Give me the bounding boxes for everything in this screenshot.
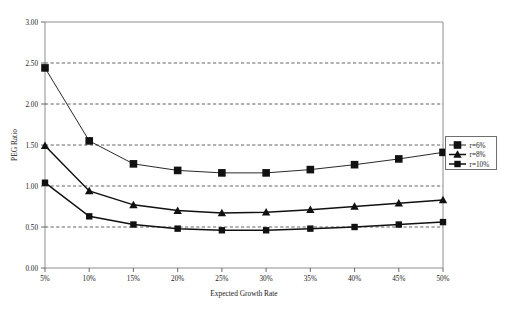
y-tick-label: 0.50 bbox=[25, 224, 38, 232]
legend-label: r=10% bbox=[470, 161, 490, 169]
data-point bbox=[263, 227, 269, 233]
data-point bbox=[85, 137, 93, 145]
data-point bbox=[307, 225, 313, 231]
y-tick-label: 3.00 bbox=[25, 19, 38, 27]
x-tick-label: 10% bbox=[83, 275, 96, 283]
legend-marker bbox=[454, 161, 460, 167]
series-line bbox=[45, 146, 443, 213]
series-line bbox=[45, 183, 443, 231]
figure-container: 3.00 2.50 2.00 1.50 1.00 0.50 0.00 PEG R… bbox=[0, 0, 505, 322]
y-tick-label: 2.50 bbox=[25, 60, 38, 68]
y-tick-label: 2.00 bbox=[25, 101, 38, 109]
data-point bbox=[42, 180, 48, 186]
data-point bbox=[130, 160, 138, 168]
x-tick-label: 35% bbox=[304, 275, 317, 283]
x-tick-label: 45% bbox=[392, 275, 405, 283]
series-r-6- bbox=[41, 64, 447, 177]
series-line bbox=[45, 68, 443, 173]
y-tick-label: 0.00 bbox=[25, 265, 38, 273]
data-point bbox=[219, 227, 225, 233]
data-point bbox=[440, 219, 446, 225]
x-tick-label: 40% bbox=[348, 275, 361, 283]
data-point bbox=[41, 64, 49, 72]
data-point bbox=[218, 169, 226, 177]
y-axis-tick-labels: 3.00 2.50 2.00 1.50 1.00 0.50 0.00 bbox=[25, 19, 38, 273]
x-tick-label: 15% bbox=[127, 275, 140, 283]
x-tick-label: 5% bbox=[40, 275, 50, 283]
data-point bbox=[174, 167, 182, 175]
data-point bbox=[174, 225, 180, 231]
data-point bbox=[307, 166, 315, 174]
y-axis-title: PEG Ratio bbox=[10, 129, 19, 161]
x-axis-tick-labels: 5% 10% 15% 20% 25% 30% 35% 40% 45% 50% bbox=[40, 275, 449, 283]
legend-label: r=8% bbox=[470, 151, 486, 159]
chart-legend: r=6%r=8%r=10% bbox=[446, 137, 497, 170]
y-tick-label: 1.50 bbox=[25, 142, 38, 150]
data-point bbox=[351, 161, 359, 169]
data-point bbox=[262, 169, 270, 177]
data-point bbox=[86, 213, 92, 219]
legend-label: r=6% bbox=[470, 142, 486, 150]
legend-entries: r=6%r=8%r=10% bbox=[449, 141, 489, 168]
x-tick-label: 25% bbox=[215, 275, 228, 283]
data-point bbox=[351, 224, 357, 230]
data-series-layer bbox=[41, 64, 447, 233]
x-axis-ticks bbox=[45, 268, 443, 272]
x-tick-label: 30% bbox=[260, 275, 273, 283]
y-gridlines bbox=[45, 63, 443, 227]
data-point bbox=[395, 155, 403, 163]
series-r-10- bbox=[42, 180, 446, 234]
legend-marker bbox=[454, 141, 462, 149]
y-tick-label: 1.00 bbox=[25, 183, 38, 191]
x-tick-label: 20% bbox=[171, 275, 184, 283]
x-tick-label: 50% bbox=[436, 275, 449, 283]
x-axis-title: Expected Growth Rate bbox=[210, 289, 278, 298]
series-r-8- bbox=[41, 142, 447, 217]
peg-ratio-line-chart: 3.00 2.50 2.00 1.50 1.00 0.50 0.00 PEG R… bbox=[0, 0, 505, 322]
data-point bbox=[396, 221, 402, 227]
data-point bbox=[130, 221, 136, 227]
